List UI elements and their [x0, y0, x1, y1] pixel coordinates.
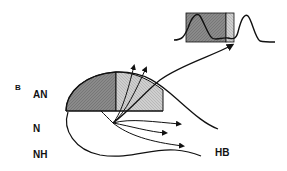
label-nh: NH — [33, 150, 47, 160]
label-an: AN — [33, 90, 47, 100]
fan-stub-1 — [101, 111, 113, 123]
inset-waveform — [174, 13, 275, 42]
panel-label: B — [15, 84, 21, 92]
arrow-down-3 — [113, 123, 183, 146]
arrow-down-1 — [113, 121, 180, 124]
label-n: N — [33, 124, 40, 134]
diagram-canvas — [0, 0, 287, 171]
label-hb: HB — [215, 148, 229, 158]
